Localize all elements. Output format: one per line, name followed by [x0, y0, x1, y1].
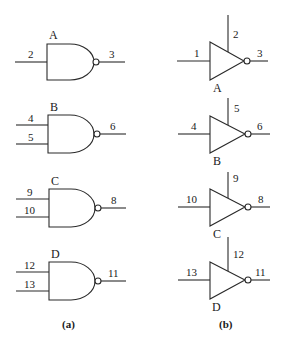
pin-label: 4	[28, 112, 34, 124]
nand-gate-c: C 9 10 8	[16, 174, 126, 227]
pin-label: 4	[191, 120, 197, 132]
pin-label: 12	[233, 248, 244, 260]
pin-label: 5	[234, 102, 240, 114]
pin-label: 9	[27, 186, 33, 198]
tristate-inverter-b: 4 5 6 B	[178, 98, 270, 168]
logic-diagram: A 2 3 B 4 5 6 C 9 10 8 D 12 13 11	[0, 0, 294, 347]
pin-label: 10	[186, 193, 198, 205]
pin-label: 10	[24, 204, 36, 216]
gate-label: A	[49, 28, 58, 42]
gate-label: B	[213, 154, 221, 168]
gate-label: B	[50, 100, 58, 114]
caption-b: (b)	[219, 318, 233, 331]
nand-gate-b: B 4 5 6	[16, 100, 126, 153]
gate-label: A	[213, 81, 222, 95]
pin-label: 2	[28, 48, 34, 60]
pin-label: 3	[109, 48, 115, 60]
tristate-inverter-d: 13 12 11 D	[178, 237, 270, 314]
pin-label: 1	[194, 47, 200, 59]
nand-gate-d: D 12 13 11	[16, 247, 126, 300]
pin-label: 6	[257, 120, 263, 132]
pin-label: 13	[186, 266, 198, 278]
pin-label: 11	[255, 266, 266, 278]
pin-label: 6	[110, 120, 116, 132]
nand-gate-a: A 2 3	[15, 28, 125, 80]
pin-label: 9	[233, 172, 239, 184]
pin-label: 11	[108, 267, 119, 279]
pin-label: 12	[24, 259, 35, 271]
pin-label: 3	[257, 47, 263, 59]
gate-label: D	[51, 247, 60, 261]
gate-label: C	[51, 174, 59, 188]
tristate-inverter-c: 10 9 8 C	[178, 172, 270, 241]
pin-label: 8	[111, 194, 117, 206]
gate-label: D	[212, 300, 221, 314]
tristate-inverter-a: 1 2 3 A	[177, 15, 268, 95]
gate-label: C	[213, 227, 221, 241]
pin-label: 5	[28, 131, 34, 143]
pin-label: 2	[233, 28, 239, 40]
caption-a: (a)	[62, 318, 75, 331]
pin-label: 8	[258, 193, 264, 205]
pin-label: 13	[24, 278, 36, 290]
